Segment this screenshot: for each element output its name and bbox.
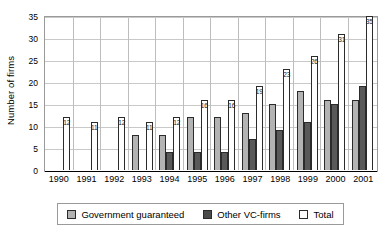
x-axis-label: 1999 <box>294 174 322 190</box>
bar: 19 <box>256 86 263 170</box>
legend-item[interactable]: Other VC-firms <box>203 209 280 220</box>
y-axis-title-label: Number of firms <box>6 55 17 124</box>
bar <box>221 152 228 170</box>
legend-swatch-icon <box>203 210 212 219</box>
bar-group: 12 <box>101 18 129 170</box>
legend-swatch-icon <box>299 210 308 219</box>
y-axis-ticks: 05101520253035 <box>18 16 42 172</box>
bar: 12 <box>118 117 125 170</box>
bar-value-label: 19 <box>256 88 263 95</box>
bar-group: 12 <box>156 18 184 170</box>
bar: 23 <box>283 69 290 170</box>
bar-value-label: 12 <box>63 119 70 126</box>
x-axis-label: 1995 <box>183 174 211 190</box>
plot-area: 121112111216161923263135 <box>44 16 378 172</box>
bar <box>214 117 221 170</box>
bar <box>276 130 283 170</box>
bar-group: 11 <box>129 18 157 170</box>
bar <box>324 100 331 170</box>
x-axis-label: 2000 <box>322 174 350 190</box>
gridline <box>45 171 377 172</box>
bar-value-label: 12 <box>173 119 180 126</box>
bar: 16 <box>201 100 208 170</box>
bar-group: 16 <box>211 18 239 170</box>
bar <box>242 113 249 170</box>
bar <box>269 104 276 170</box>
y-axis-tick-label: 0 <box>33 166 38 176</box>
bar-value-label: 31 <box>338 36 345 43</box>
x-axis-label: 1992 <box>100 174 128 190</box>
y-axis-tick-label: 10 <box>29 122 38 132</box>
bar: 12 <box>63 117 70 170</box>
legend-item[interactable]: Total <box>299 209 333 220</box>
bar-group: 26 <box>294 18 322 170</box>
legend-item[interactable]: Government guaranteed <box>67 209 184 220</box>
bar-group: 31 <box>321 18 349 170</box>
bar: 12 <box>173 117 180 170</box>
bar: 11 <box>91 122 98 170</box>
bar-value-label: 11 <box>91 124 98 131</box>
bar-value-label: 16 <box>228 102 235 109</box>
y-axis-tick-label: 30 <box>29 34 38 44</box>
bar <box>194 152 201 170</box>
bar: 35 <box>366 16 373 170</box>
bar <box>132 135 139 170</box>
chart-figure: Number of firms 05101520253035 121112111… <box>0 0 389 237</box>
bar <box>304 122 311 170</box>
bar <box>297 91 304 170</box>
y-axis-tick-label: 15 <box>29 100 38 110</box>
bar: 31 <box>338 34 345 170</box>
bar <box>331 104 338 170</box>
bar-value-label: 23 <box>283 71 290 78</box>
legend-label: Total <box>313 209 333 220</box>
bar-group: 35 <box>349 18 377 170</box>
bar-value-label: 16 <box>201 102 208 109</box>
bar-value-label: 26 <box>311 58 318 65</box>
legend-label: Other VC-firms <box>217 209 280 220</box>
x-axis-label: 1998 <box>266 174 294 190</box>
bar <box>159 135 166 170</box>
bar-group: 12 <box>46 18 74 170</box>
bar: 16 <box>228 100 235 170</box>
bar-group: 11 <box>74 18 102 170</box>
x-axis-label: 1996 <box>211 174 239 190</box>
y-axis-tick-label: 25 <box>29 56 38 66</box>
legend-label: Government guaranteed <box>81 209 184 220</box>
x-axis-label: 1990 <box>45 174 73 190</box>
y-axis-tick-label: 35 <box>29 12 38 22</box>
bar-value-label: 11 <box>146 124 153 131</box>
x-axis-label: 2001 <box>349 174 377 190</box>
chart-legend: Government guaranteedOther VC-firmsTotal <box>57 203 344 225</box>
bar <box>166 152 173 170</box>
legend-swatch-icon <box>67 210 76 219</box>
bar-value-label: 12 <box>118 119 125 126</box>
bar-group: 23 <box>266 18 294 170</box>
x-axis-label: 1994 <box>156 174 184 190</box>
bar: 11 <box>146 122 153 170</box>
bar-group: 16 <box>184 18 212 170</box>
bar-groups: 121112111216161923263135 <box>46 18 376 170</box>
bar: 26 <box>311 56 318 170</box>
x-axis-labels: 1990199119921993199419951996199719981999… <box>45 174 377 190</box>
x-axis-label: 1991 <box>73 174 101 190</box>
bar <box>359 86 366 170</box>
y-axis-tick-label: 5 <box>33 144 38 154</box>
x-axis-label: 1997 <box>239 174 267 190</box>
bar-group: 19 <box>239 18 267 170</box>
bar-value-label: 35 <box>366 18 373 25</box>
x-axis-label: 1993 <box>128 174 156 190</box>
bar <box>187 117 194 170</box>
y-axis-tick-label: 20 <box>29 78 38 88</box>
bar <box>249 139 256 170</box>
bar <box>352 100 359 170</box>
